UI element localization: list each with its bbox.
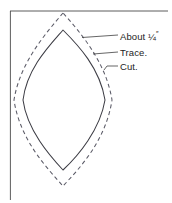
leader-line-offset <box>82 35 118 38</box>
label-trace: Trace. <box>120 48 147 58</box>
label-cut: Cut. <box>120 62 138 72</box>
trace-line-path <box>23 30 105 170</box>
label-seam-allowance: About ¼″ <box>120 30 159 42</box>
label-seam-allowance-prefix: About <box>120 31 148 42</box>
pattern-diagram-figure: About ¼″ Trace. Cut. <box>0 0 172 203</box>
leader-line-cut <box>104 66 118 70</box>
label-seam-allowance-fraction: ¼ <box>148 31 156 42</box>
cut-line-path <box>14 13 112 186</box>
leader-line-trace <box>93 52 118 54</box>
inch-mark-symbol: ″ <box>156 30 158 37</box>
